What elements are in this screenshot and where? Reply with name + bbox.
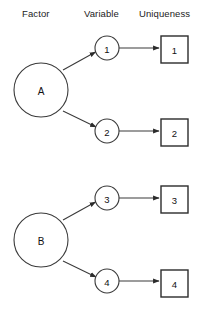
uniqueness-node-1-label: 1 <box>172 45 177 56</box>
uniqueness-node-2[interactable]: 2 <box>161 119 188 146</box>
factor-node-a-label: A <box>38 86 45 97</box>
diagram-canvas: A 1 2 1 2 <box>0 0 213 311</box>
factor-node-b[interactable]: B <box>14 213 68 267</box>
uniqueness-node-4[interactable]: 4 <box>161 270 188 297</box>
factor-node-a[interactable]: A <box>14 63 68 117</box>
uniqueness-node-2-label: 2 <box>172 128 177 139</box>
uniqueness-node-1[interactable]: 1 <box>161 36 188 63</box>
factor-node-b-label: B <box>38 236 45 247</box>
edge-factor-b-to-variable-4 <box>63 261 96 277</box>
variable-node-2[interactable]: 2 <box>95 119 119 143</box>
variable-node-4-label: 4 <box>104 277 109 288</box>
uniqueness-node-4-label: 4 <box>172 279 177 290</box>
variable-node-4[interactable]: 4 <box>95 269 119 293</box>
edge-factor-b-to-variable-3 <box>63 202 96 220</box>
variable-node-1[interactable]: 1 <box>95 36 119 60</box>
uniqueness-node-3[interactable]: 3 <box>161 186 188 213</box>
edge-factor-a-to-variable-2 <box>63 111 96 127</box>
variable-node-3[interactable]: 3 <box>95 186 119 210</box>
uniqueness-node-3-label: 3 <box>172 195 177 206</box>
variable-node-1-label: 1 <box>104 44 109 55</box>
variable-node-3-label: 3 <box>104 194 109 205</box>
variable-node-2-label: 2 <box>104 127 109 138</box>
factor-diagram: Factor Variable Uniqueness A 1 <box>0 0 213 311</box>
edge-factor-a-to-variable-1 <box>63 52 96 70</box>
